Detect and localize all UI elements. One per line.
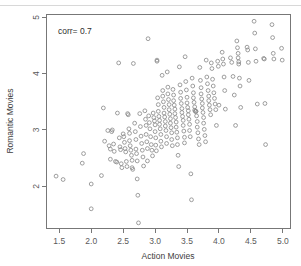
- data-point: [128, 139, 132, 143]
- data-point: [188, 135, 192, 139]
- data-point: [216, 59, 220, 63]
- data-point: [197, 137, 201, 141]
- data-point: [116, 111, 120, 115]
- data-point: [146, 159, 150, 163]
- data-point: [197, 143, 201, 147]
- data-point: [200, 97, 204, 101]
- data-point: [204, 140, 208, 144]
- data-point: [138, 112, 142, 116]
- x-tick-label: 3.0: [149, 236, 161, 246]
- data-point: [154, 143, 158, 147]
- data-point: [183, 135, 187, 139]
- data-point: [135, 152, 139, 156]
- data-point: [231, 75, 235, 79]
- data-point: [158, 127, 162, 131]
- data-point: [206, 89, 210, 93]
- x-tick-label: 3.5: [181, 236, 193, 246]
- data-point: [154, 149, 158, 153]
- data-point: [163, 120, 167, 124]
- data-point: [179, 97, 183, 101]
- data-point: [153, 130, 157, 134]
- data-point: [174, 120, 178, 124]
- data-point: [263, 102, 267, 106]
- data-point: [177, 65, 181, 69]
- data-point: [156, 96, 160, 100]
- data-point: [160, 73, 164, 77]
- data-point: [253, 31, 257, 35]
- data-point: [183, 55, 187, 59]
- y-axis-title: Romantic Movies: [5, 88, 15, 153]
- data-point: [140, 142, 144, 146]
- data-point: [209, 61, 213, 65]
- data-point: [207, 103, 211, 107]
- data-point: [195, 120, 199, 124]
- y-tick-label: 2: [32, 184, 42, 189]
- data-point: [188, 122, 192, 126]
- data-point: [185, 95, 189, 99]
- data-point: [223, 107, 227, 111]
- data-point: [198, 66, 202, 70]
- data-point: [169, 117, 173, 121]
- data-point: [172, 93, 176, 97]
- data-point: [160, 145, 164, 149]
- scatter-plot-figure: 1.52.02.53.03.54.04.55.0 Action Movies 2…: [0, 0, 301, 266]
- data-point: [166, 85, 170, 89]
- data-point: [89, 182, 93, 186]
- data-point: [221, 57, 225, 61]
- data-point: [209, 113, 213, 117]
- data-point-layer: [54, 19, 284, 224]
- data-point: [195, 125, 199, 129]
- data-point: [176, 153, 180, 157]
- y-tick-label: 5: [32, 15, 42, 20]
- x-tick-label: 2.5: [117, 236, 129, 246]
- x-tick-label: 2.0: [85, 236, 97, 246]
- data-point: [230, 60, 234, 64]
- data-point: [238, 84, 242, 88]
- y-axis-ticks: [42, 17, 47, 186]
- data-point: [167, 108, 171, 112]
- data-point: [176, 136, 180, 140]
- data-point: [216, 64, 220, 68]
- data-point: [178, 83, 182, 87]
- data-point: [108, 147, 112, 151]
- data-point: [196, 131, 200, 135]
- data-point: [211, 84, 215, 88]
- data-point: [247, 78, 251, 82]
- data-point: [239, 106, 243, 110]
- data-point: [129, 148, 133, 152]
- data-point: [61, 178, 65, 182]
- data-point: [139, 134, 143, 138]
- data-point: [235, 39, 239, 43]
- data-point: [189, 172, 193, 176]
- data-point: [89, 207, 93, 211]
- data-point: [134, 147, 138, 151]
- data-point: [214, 108, 218, 112]
- data-point: [112, 149, 116, 153]
- x-tick-label: 1.5: [53, 236, 65, 246]
- data-point: [164, 129, 168, 133]
- data-point: [215, 124, 219, 128]
- data-point: [177, 165, 181, 169]
- data-point: [236, 56, 240, 60]
- data-point: [117, 61, 121, 65]
- data-point: [201, 111, 205, 115]
- data-point: [200, 106, 204, 110]
- data-point: [167, 103, 171, 107]
- data-point: [137, 221, 141, 225]
- data-point: [133, 121, 137, 125]
- data-point: [143, 109, 147, 113]
- data-point: [130, 153, 134, 157]
- data-point: [161, 89, 165, 93]
- data-point: [135, 177, 139, 181]
- data-point: [169, 126, 173, 130]
- data-point: [199, 78, 203, 82]
- data-point: [100, 174, 104, 178]
- data-point: [133, 130, 137, 134]
- data-point: [199, 86, 203, 90]
- data-point: [223, 89, 227, 93]
- data-point: [181, 118, 185, 122]
- data-point: [187, 117, 191, 121]
- data-point: [146, 37, 150, 41]
- data-point: [161, 94, 165, 98]
- data-point: [184, 88, 188, 92]
